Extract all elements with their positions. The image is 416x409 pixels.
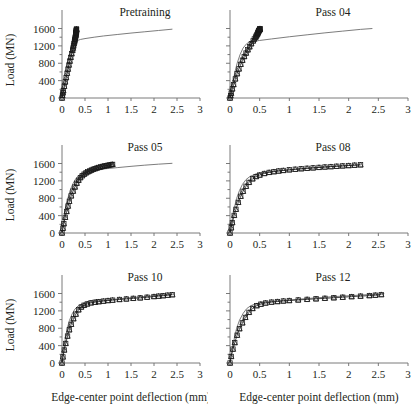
x-tick-label: 1.5: [124, 103, 138, 115]
x-tick-label: 2: [151, 368, 157, 380]
x-axis-label: Edge-center point deflection (mm): [239, 391, 399, 404]
y-tick-label: 1200: [33, 305, 56, 317]
data-markers: [59, 292, 175, 365]
x-tick-label: 2: [151, 103, 157, 115]
x-tick-label: 2: [346, 103, 352, 115]
model-curve-line: [230, 294, 384, 363]
panel-title: Pass 10: [128, 271, 163, 283]
x-axis-label: Edge-center point deflection (mm): [51, 391, 208, 404]
y-tick-label: 400: [39, 75, 56, 87]
plot-canvas: 00.511.522.53040080012001600Load (MN)Pas…: [0, 135, 208, 271]
plot-canvas: 00.511.522.53Pass 04: [208, 0, 416, 136]
x-tick-label: 1: [287, 238, 293, 250]
x-tick-label: 0: [59, 238, 65, 250]
y-tick-label: 1600: [33, 158, 56, 170]
y-tick-label: 400: [39, 210, 56, 222]
figure-multi-panel-load-deflection: 00.511.522.53040080012001600Load (MN)Pre…: [0, 0, 416, 409]
panel-pass-08: 00.511.522.53Pass 08: [208, 135, 416, 271]
model-curve-line: [62, 163, 172, 233]
panel-pass-10: 00.511.522.53040080012001600Load (MN)Edg…: [0, 265, 208, 409]
panel-title: Pass 05: [128, 141, 163, 153]
panel-title: Pass 04: [316, 6, 351, 18]
x-tick-label: 0: [59, 103, 65, 115]
panel-title: Pass 08: [316, 141, 351, 153]
x-tick-label: 3: [405, 368, 411, 380]
x-tick-label: 1: [105, 368, 111, 380]
y-tick-label: 1600: [33, 23, 56, 35]
x-tick-label: 0.5: [78, 238, 92, 250]
x-tick-label: 1.5: [124, 238, 138, 250]
x-tick-label: 0.5: [78, 103, 92, 115]
y-tick-label: 0: [50, 357, 56, 369]
data-series-line: [230, 165, 361, 233]
x-tick-label: 1: [105, 238, 111, 250]
panel-title: Pretraining: [119, 6, 170, 19]
panel-title: Pass 12: [316, 271, 351, 283]
x-tick-label: 1.5: [312, 368, 326, 380]
y-tick-label: 1600: [33, 288, 56, 300]
panel-pass-05: 00.511.522.53040080012001600Load (MN)Pas…: [0, 135, 208, 271]
model-curve-line: [230, 165, 361, 233]
y-tick-label: 800: [39, 192, 56, 204]
x-tick-label: 0: [227, 238, 233, 250]
data-markers: [227, 162, 363, 235]
x-tick-label: 1.5: [312, 238, 326, 250]
x-tick-label: 0.5: [253, 103, 267, 115]
y-tick-label: 0: [50, 92, 56, 104]
x-tick-label: 3: [197, 238, 203, 250]
y-axis-label: Load (MN): [4, 298, 17, 351]
x-tick-label: 0.5: [78, 368, 92, 380]
x-tick-label: 0.5: [253, 368, 267, 380]
x-tick-label: 2.5: [170, 368, 184, 380]
data-markers: [227, 292, 384, 365]
x-tick-label: 1: [287, 103, 293, 115]
x-tick-label: 1: [287, 368, 293, 380]
plot-canvas: 00.511.522.53040080012001600Load (MN)Edg…: [0, 265, 208, 409]
x-tick-label: 3: [197, 368, 203, 380]
x-tick-label: 0: [59, 368, 65, 380]
x-tick-label: 2.5: [371, 238, 385, 250]
panel-pretraining: 00.511.522.53040080012001600Load (MN)Pre…: [0, 0, 208, 136]
x-tick-label: 3: [405, 103, 411, 115]
x-tick-label: 2: [151, 238, 157, 250]
x-tick-label: 1: [105, 103, 111, 115]
model-curve-line: [62, 294, 172, 363]
panel-pass-12: 00.511.522.53Edge-center point deflectio…: [208, 265, 416, 409]
y-tick-label: 1200: [33, 175, 56, 187]
x-tick-label: 2: [346, 238, 352, 250]
y-tick-label: 1200: [33, 40, 56, 52]
y-tick-label: 400: [39, 340, 56, 352]
x-tick-label: 3: [197, 103, 203, 115]
x-tick-label: 2.5: [371, 368, 385, 380]
x-tick-label: 2.5: [170, 238, 184, 250]
y-axis-label: Load (MN): [4, 33, 17, 86]
x-tick-label: 0: [227, 368, 233, 380]
x-tick-label: 1.5: [312, 103, 326, 115]
plot-canvas: 00.511.522.53040080012001600Load (MN)Pre…: [0, 0, 208, 136]
x-tick-label: 1.5: [124, 368, 138, 380]
x-tick-label: 0: [227, 103, 233, 115]
y-axis-label: Load (MN): [4, 168, 17, 221]
x-tick-label: 2: [346, 368, 352, 380]
panel-pass-04: 00.511.522.53Pass 04: [208, 0, 416, 136]
x-tick-label: 0.5: [253, 238, 267, 250]
y-tick-label: 800: [39, 322, 56, 334]
x-tick-label: 2.5: [371, 103, 385, 115]
y-tick-label: 800: [39, 57, 56, 69]
x-tick-label: 3: [405, 238, 411, 250]
x-tick-label: 2.5: [170, 103, 184, 115]
data-series-line: [62, 295, 172, 363]
plot-canvas: 00.511.522.53Edge-center point deflectio…: [208, 265, 416, 409]
plot-canvas: 00.511.522.53Pass 08: [208, 135, 416, 271]
y-tick-label: 0: [50, 227, 56, 239]
